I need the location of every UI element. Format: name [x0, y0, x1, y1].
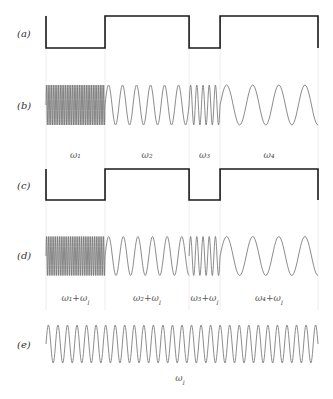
if-signal-e: [46, 325, 318, 363]
segment-label: ω₂: [142, 150, 153, 160]
mixing-diagram: (a) (b) (c) (d) (e) ω₁ω₂ω₃ω₄ ω₁+ωIω₂+ωIω…: [0, 0, 333, 399]
wave-segment-4: [220, 85, 318, 125]
wave-segment-3: [189, 237, 220, 276]
wave-segment-4: [220, 237, 318, 276]
label-subscript: I: [86, 299, 90, 306]
if-frequency-label: ωI: [175, 373, 185, 386]
segment-label: ω₃: [199, 150, 210, 160]
segment-label: ω₄+ωI: [255, 293, 284, 306]
square-wave-a: [46, 16, 318, 48]
caption-subscript: I: [181, 379, 185, 386]
segment-labels-b: ω₁ω₂ω₃ω₄: [70, 150, 275, 160]
segment-label: ω₄: [264, 150, 275, 160]
wave-segment-3: [189, 85, 220, 125]
label-subscript: I: [158, 299, 162, 306]
segment-label: ω₁+ωI: [61, 293, 90, 306]
segment-label: ω₃+ωI: [190, 293, 219, 306]
row-label-d: (d): [17, 250, 31, 261]
row-label-c: (c): [17, 180, 31, 191]
label-subscript: I: [215, 299, 219, 306]
wave-segment-1: [46, 237, 105, 276]
wave-segment-1: [46, 85, 105, 125]
rf-signal-b: [46, 85, 318, 125]
segment-label: ω₂+ωI: [133, 293, 162, 306]
segment-labels-d: ω₁+ωIω₂+ωIω₃+ωIω₄+ωI: [61, 293, 283, 306]
wave-segment-2: [105, 85, 189, 125]
wave-segment-2: [105, 237, 189, 276]
row-label-a: (a): [17, 28, 31, 39]
row-label-e: (e): [17, 339, 31, 350]
segment-label: ω₁: [70, 150, 81, 160]
mixed-signal-d: [46, 237, 318, 276]
row-label-b: (b): [17, 100, 31, 111]
square-wave-c: [46, 169, 318, 200]
label-subscript: I: [280, 299, 284, 306]
